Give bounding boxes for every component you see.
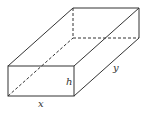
edge-bottom-right-diagonal: [74, 38, 139, 96]
label-h: h: [66, 76, 72, 87]
edge-top-left-diagonal: [8, 8, 73, 66]
label-y: y: [112, 62, 119, 73]
hidden-edge-bottom-diagonal: [8, 38, 73, 96]
label-x: x: [38, 98, 44, 109]
box-diagram: h x y: [0, 0, 145, 113]
edge-top-right-diagonal: [74, 8, 139, 66]
front-face: [8, 66, 74, 96]
